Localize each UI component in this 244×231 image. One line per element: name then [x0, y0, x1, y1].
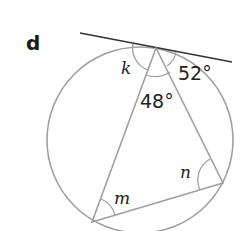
angle-label-m: m [114, 188, 130, 208]
angle-arc-apex [146, 72, 170, 77]
angle-label-52: 52° [178, 62, 212, 84]
angle-arc-m [101, 199, 115, 215]
geometry-diagram: d k 52° 48° n m [0, 0, 244, 231]
part-label: d [26, 31, 40, 55]
angle-label-n: n [180, 162, 191, 182]
angle-label-48: 48° [140, 90, 174, 112]
angle-label-k: k [121, 58, 131, 78]
angle-arc-n [198, 159, 210, 190]
